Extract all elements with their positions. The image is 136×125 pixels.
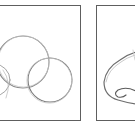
nose-outline-drawing [104,50,135,104]
nose-outline-path [104,52,135,104]
construction-circles [0,36,72,103]
nose-sketch-illustration [0,0,135,125]
nostril-curl-path [116,88,136,97]
